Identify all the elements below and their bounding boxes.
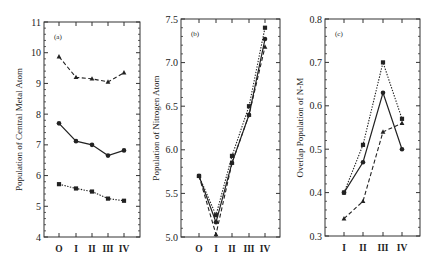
panel-tag: (b): [191, 30, 200, 38]
x-category-label: I: [74, 244, 78, 254]
y-tick-label: 4: [36, 232, 41, 243]
panel-tag: (a): [54, 33, 62, 41]
y-axis-title: Population of Central Metal Atom: [14, 68, 24, 191]
x-category-label: I: [214, 244, 218, 254]
x-category-label: II: [88, 244, 96, 254]
chart-panel-0: 4567891011OIIIIIIIV(a)Population of Cent…: [14, 17, 140, 255]
square-marker: [361, 143, 365, 147]
series-line-circle-solid: [199, 39, 265, 222]
triangle-marker: [214, 232, 219, 236]
circle-marker: [263, 37, 268, 42]
series-line-circle-solid: [344, 93, 402, 193]
y-tick-label: 11: [31, 17, 41, 28]
circle-marker: [342, 190, 347, 195]
panel-tag: (c): [335, 30, 343, 38]
y-tick-label: 7: [36, 139, 41, 150]
series-line-square-dotted: [199, 28, 265, 215]
circle-marker: [361, 160, 366, 165]
plot-frame: [181, 19, 280, 237]
y-axis-title: Population of Nitrogen Atom: [151, 75, 161, 180]
y-tick-label: 6.5: [166, 101, 179, 112]
circle-marker: [57, 121, 62, 126]
y-axis-title: Overlap Population of N-M: [295, 78, 305, 178]
circle-marker: [90, 143, 95, 148]
y-tick-label: 0.6: [310, 100, 323, 111]
x-category-label: O: [55, 244, 62, 254]
y-tick-label: 0.7: [310, 57, 323, 68]
triangle-marker: [122, 70, 127, 74]
triangle-marker: [74, 75, 79, 79]
x-category-label: II: [359, 243, 367, 253]
series-line-circle-solid: [59, 123, 124, 155]
y-tick-label: 7.0: [166, 57, 179, 68]
circle-marker: [122, 148, 127, 153]
square-marker: [57, 182, 61, 186]
y-tick-label: 0.5: [310, 144, 323, 155]
y-tick-label: 5.5: [166, 188, 179, 199]
square-marker: [90, 189, 94, 193]
circle-marker: [74, 139, 79, 144]
triangle-marker: [361, 199, 366, 203]
x-category-label: III: [377, 243, 388, 253]
y-tick-label: 0.8: [310, 14, 323, 25]
x-category-label: O: [195, 244, 202, 254]
square-marker: [74, 186, 78, 190]
x-category-label: III: [102, 244, 113, 254]
y-tick-label: 6.0: [166, 144, 179, 155]
square-marker: [122, 199, 126, 203]
x-category-label: IV: [119, 244, 130, 254]
circle-marker: [400, 147, 405, 152]
y-tick-label: 9: [36, 78, 41, 89]
y-tick-label: 7.5: [166, 14, 179, 25]
x-category-label: III: [243, 244, 254, 254]
y-tick-label: 8: [36, 109, 41, 120]
y-tick-label: 5: [36, 201, 41, 212]
square-marker: [400, 117, 404, 121]
plot-frame: [44, 22, 140, 237]
x-category-label: I: [342, 243, 346, 253]
square-marker: [263, 26, 267, 30]
y-tick-label: 0.3: [310, 231, 323, 242]
chart-panel-1: 5.05.56.06.57.07.5OIIIIIIIV(b)Population…: [151, 14, 280, 255]
circle-marker: [381, 90, 386, 95]
y-tick-label: 0.4: [310, 187, 323, 198]
y-tick-label: 10: [31, 47, 41, 58]
figure-three-panel-chart: 4567891011OIIIIIIIV(a)Population of Cent…: [0, 0, 444, 261]
y-tick-label: 5.0: [166, 232, 179, 243]
circle-marker: [106, 153, 111, 158]
x-category-label: IV: [397, 243, 408, 253]
y-tick-label: 6: [36, 170, 41, 181]
triangle-marker: [57, 54, 62, 58]
x-category-label: IV: [260, 244, 271, 254]
square-marker: [106, 197, 110, 201]
chart-panel-2: 0.30.40.50.60.70.8IIIIIIIV(c)Overlap Pop…: [295, 14, 420, 254]
circle-marker: [214, 220, 219, 225]
triangle-marker: [400, 121, 405, 125]
x-category-label: II: [228, 244, 236, 254]
square-marker: [381, 60, 385, 64]
